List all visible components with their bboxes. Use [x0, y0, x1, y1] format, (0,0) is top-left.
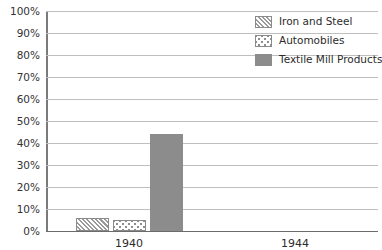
axis-baseline — [46, 231, 378, 232]
y-axis-tick-label: 50% — [0, 116, 40, 127]
bar-automobiles-1940 — [113, 220, 146, 231]
gridline — [46, 209, 378, 210]
gridline — [46, 187, 378, 188]
y-axis-tick-label: 70% — [0, 72, 40, 83]
legend-item: Textile Mill Products — [255, 50, 382, 69]
gridline — [46, 121, 378, 122]
legend-swatch-dotted-icon — [255, 35, 272, 47]
bar-textile-mill-products-1940 — [150, 134, 183, 231]
gridline — [46, 143, 378, 144]
y-axis-tick-label: 60% — [0, 94, 40, 105]
legend-swatch-solid-icon — [255, 54, 272, 66]
gridline — [46, 77, 378, 78]
gridline — [46, 99, 378, 100]
y-axis-tick-label: 100% — [0, 6, 40, 17]
y-axis-tick-label: 30% — [0, 160, 40, 171]
y-axis-tick-label: 80% — [0, 50, 40, 61]
y-axis-tick-label: 0% — [0, 226, 40, 237]
legend-swatch-diagonal-hatch-icon — [255, 16, 272, 28]
y-axis-tick-label: 90% — [0, 28, 40, 39]
y-axis-tick-label: 10% — [0, 204, 40, 215]
bar-chart: 100%90%80%70%60%50%40%30%20%10%0% 194019… — [0, 0, 382, 250]
legend-item: Iron and Steel — [255, 12, 382, 31]
gridline — [46, 165, 378, 166]
x-axis-tick-label: 1940 — [89, 238, 169, 249]
y-axis-tick-label: 40% — [0, 138, 40, 149]
legend-label: Textile Mill Products — [279, 54, 382, 65]
x-axis-tick-label: 1944 — [255, 238, 335, 249]
legend-item: Automobiles — [255, 31, 382, 50]
legend-label: Iron and Steel — [279, 16, 352, 27]
y-axis-tick-label: 20% — [0, 182, 40, 193]
chart-legend: Iron and SteelAutomobilesTextile Mill Pr… — [255, 12, 382, 69]
bar-iron-and-steel-1940 — [76, 218, 109, 231]
legend-label: Automobiles — [279, 35, 344, 46]
